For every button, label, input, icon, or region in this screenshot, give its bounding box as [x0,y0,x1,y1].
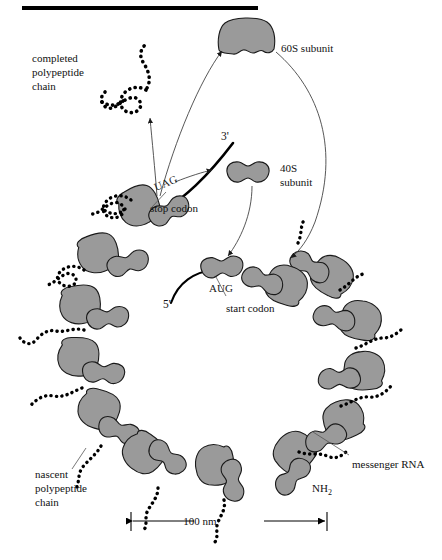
label-completed-chain-line3: chain [32,80,56,92]
completed-polypeptide-chain-glyph [101,43,149,113]
label-start-codon: start codon [226,302,275,314]
label-nascent-chain-line2: polypeptide [35,482,87,494]
label-scale-bar: 100 nm [183,515,217,527]
label-nascent-chain-line1: nascent [35,468,68,480]
label-60s-subunit: 60S subunit [281,42,333,54]
top-rule [22,6,258,10]
label-start-codon-sequence: AUG [209,282,233,294]
label-5prime-end: 5' [163,298,171,310]
label-3prime-end: 3' [221,130,229,142]
messenger-rna-strand [160,143,233,303]
free-40s-subunit [227,162,269,182]
free-60s-subunit [218,18,274,54]
nh2-subscript: 2 [328,488,332,497]
label-40s-subunit-line2: subunit [280,176,312,188]
label-completed-chain-line2: polypeptide [32,66,84,78]
label-40s-subunit-line1: 40S [280,162,297,174]
label-amino-terminus: NH2 [312,482,332,497]
label-stop-codon: stop codon [150,202,198,214]
label-messenger-rna: messenger RNA [352,458,424,470]
figure-canvas: completed polypeptide chain 60S subunit … [0,0,442,560]
label-stop-codon-sequence: UAG [152,173,179,193]
label-nascent-chain-line3: chain [35,496,59,508]
label-completed-chain-line1: completed [32,52,78,64]
nh2-base: NH [312,482,328,494]
small-subunit-on-start-codon [200,255,244,278]
scale-bar: 100 nm [131,512,327,531]
recycling-arrows [150,51,326,258]
arrow-40s-to-start-codon [228,186,252,256]
